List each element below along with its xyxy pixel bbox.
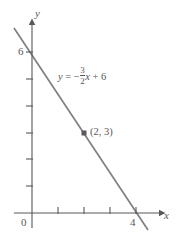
equation-variable: x bbox=[85, 71, 90, 82]
equation-plus-sign: + bbox=[93, 71, 99, 82]
data-point-label: (2, 3) bbox=[90, 127, 113, 138]
y-axis-label: y bbox=[35, 8, 40, 19]
coordinate-plane bbox=[0, 0, 176, 248]
data-point-marker bbox=[82, 131, 87, 136]
equation-equals: = bbox=[65, 71, 71, 82]
equation-annotation: y = −32x + 6 bbox=[58, 66, 106, 86]
x-axis-label: x bbox=[164, 210, 169, 221]
line-graph-figure: y x 6 0 4 (2, 3) y = −32x + 6 bbox=[0, 0, 176, 248]
plotted-line bbox=[14, 28, 148, 230]
y-intercept-tick-label: 6 bbox=[18, 46, 24, 57]
equation-lhs: y bbox=[58, 71, 63, 82]
equation-minus-sign: − bbox=[74, 71, 80, 82]
equation-constant: 6 bbox=[101, 71, 106, 82]
x-intercept-tick-label: 4 bbox=[130, 217, 136, 228]
origin-label: 0 bbox=[21, 217, 27, 228]
